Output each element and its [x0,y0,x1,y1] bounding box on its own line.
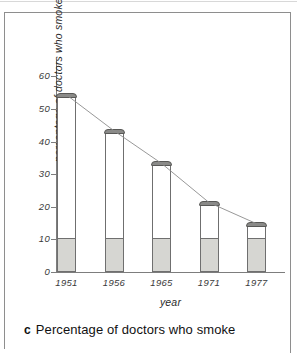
x-axis-title: year [56,296,285,308]
caption-letter: c [24,323,31,337]
bar-1965 [152,164,171,272]
x-axis-tick-label: 1971 [187,277,231,288]
bar-chart: percentage of doctors who smoke 01020304… [0,0,297,353]
y-axis-tick [51,272,57,273]
bar-1951 [57,96,76,272]
x-axis-tick-label: 1965 [140,277,184,288]
x-axis-tick-label: 1956 [92,277,136,288]
y-axis-tick-label: 50 [28,103,50,114]
y-axis-tick-label: 0 [28,266,50,277]
bar-ash-cap [56,93,77,98]
bar-filter-base [247,238,266,272]
caption-text: Percentage of doctors who smoke [36,322,236,337]
y-axis-tick-label: 60 [28,70,50,81]
page-root: percentage of doctors who smoke 01020304… [0,0,297,353]
y-axis-tick-label: 40 [28,136,50,147]
x-axis-tick-label: 1977 [235,277,279,288]
bar-1977 [247,225,266,272]
bar-filter-base [105,238,124,272]
y-axis-tick-label: 30 [28,168,50,179]
bar-ash-cap [246,222,267,227]
bar-filter-base [57,238,76,272]
bar-ash-cap [199,201,220,206]
y-axis-tick-label: 20 [28,201,50,212]
bar-filter-base [200,238,219,272]
x-axis-tick-label: 1951 [45,277,89,288]
bar-1956 [105,132,124,272]
x-axis-line [56,272,285,273]
y-axis-tick [51,76,57,77]
bar-filter-base [152,238,171,272]
bar-ash-cap [151,161,172,166]
figure-caption: cPercentage of doctors who smoke [24,322,284,337]
y-axis-tick-label: 10 [28,233,50,244]
bar-1971 [200,204,219,273]
bar-ash-cap [104,129,125,134]
